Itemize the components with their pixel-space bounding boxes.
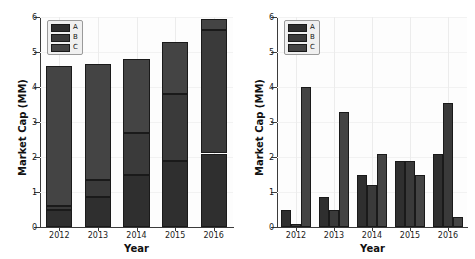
legend-label-c: C	[73, 44, 78, 51]
bar-segment	[46, 210, 72, 228]
bar-segment	[123, 59, 149, 133]
legend-swatch-b-icon	[51, 34, 70, 42]
y-tick-label: 1	[244, 189, 277, 197]
x-tick-label: 2016	[428, 232, 468, 240]
legend-swatch-a-icon	[288, 24, 307, 32]
bar-segment	[201, 19, 227, 30]
x-tick-label: 2013	[78, 232, 118, 240]
bar	[291, 224, 301, 228]
figure: 0123456 20122013201420152016 Market Cap …	[0, 0, 475, 259]
x-axis-label-left: Year	[40, 243, 233, 254]
bar	[301, 87, 311, 227]
legend-item-a[interactable]: A	[288, 23, 315, 32]
bar-segment	[123, 175, 149, 228]
stacked-bar-chart-panel: 0123456 20122013201420152016 Market Cap …	[0, 0, 237, 259]
legend-item-c[interactable]: C	[288, 43, 315, 52]
x-tick-label: 2012	[276, 232, 316, 240]
bar	[433, 154, 443, 228]
y-tick-label: 0	[7, 224, 40, 232]
bar-segment	[85, 197, 111, 227]
legend-item-b[interactable]: B	[288, 33, 315, 42]
bar-segment	[46, 206, 72, 210]
legend-swatch-c-icon	[288, 44, 307, 52]
y-axis-label-right: Market Cap (MM)	[254, 73, 265, 183]
bar-segment	[162, 42, 188, 95]
y-tick-label: 0	[244, 224, 277, 232]
bar	[443, 103, 453, 227]
grouped-bar-chart-panel: 0123456 20122013201420152016 Market Cap …	[237, 0, 475, 259]
legend-swatch-b-icon	[288, 34, 307, 42]
legend-label-a: A	[310, 24, 315, 31]
x-tick-label: 2014	[117, 232, 157, 240]
y-tick-label: 5	[244, 49, 277, 57]
x-tick-label: 2016	[194, 232, 234, 240]
bar-segment	[162, 161, 188, 228]
bar	[339, 112, 349, 228]
legend-label-c: C	[310, 44, 315, 51]
bar	[329, 210, 339, 228]
x-axis-label-right: Year	[277, 243, 468, 254]
gridline-vertical	[334, 17, 335, 227]
legend-item-b[interactable]: B	[51, 33, 78, 42]
x-tick-label: 2015	[155, 232, 195, 240]
bar-segment	[201, 30, 227, 154]
bar-segment	[46, 66, 72, 206]
legend-right: A B C	[284, 20, 320, 55]
x-tick-label: 2015	[390, 232, 430, 240]
x-tick-label: 2013	[314, 232, 354, 240]
legend-label-b: B	[310, 34, 315, 41]
bar	[415, 175, 425, 228]
bar	[405, 161, 415, 228]
y-tick-label: 6	[244, 14, 277, 22]
y-axis-label-left: Market Cap (MM)	[17, 73, 28, 183]
bar-segment	[85, 180, 111, 198]
y-tick-label: 5	[7, 49, 40, 57]
bar-segment	[85, 64, 111, 180]
legend-item-c[interactable]: C	[51, 43, 78, 52]
bar	[453, 217, 463, 228]
bar	[357, 175, 367, 228]
y-tick-label: 6	[7, 14, 40, 22]
bar	[319, 197, 329, 227]
bar	[377, 154, 387, 228]
bar-segment	[162, 94, 188, 161]
legend-swatch-a-icon	[51, 24, 70, 32]
bar	[367, 185, 377, 227]
x-tick-label: 2012	[39, 232, 79, 240]
y-tick-label: 1	[7, 189, 40, 197]
legend-item-a[interactable]: A	[51, 23, 78, 32]
x-tick-label: 2014	[352, 232, 392, 240]
bar	[281, 210, 291, 228]
bar-segment	[201, 154, 227, 228]
legend-label-a: A	[73, 24, 78, 31]
legend-swatch-c-icon	[51, 44, 70, 52]
bar	[395, 161, 405, 228]
legend-label-b: B	[73, 34, 78, 41]
bar-segment	[123, 133, 149, 175]
legend-left: A B C	[47, 20, 83, 55]
